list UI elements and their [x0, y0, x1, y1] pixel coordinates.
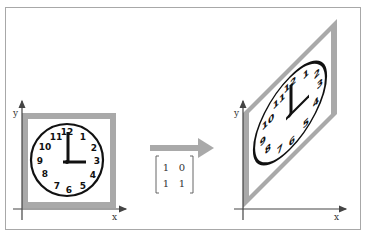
clock-icon: 12 1 2 3 4 5 6 7 8 9 10 11	[31, 124, 103, 196]
sheared-y-axis-label: y	[233, 108, 240, 118]
clock-num-9: 9	[37, 156, 43, 166]
y-axis-label: y	[12, 108, 19, 118]
clock-num-5: 5	[80, 181, 86, 191]
original-clock-panel: 12 1 2 3 4 5 6 7 8 9 10 11 y x	[12, 101, 126, 222]
clock-num-4: 4	[90, 170, 96, 180]
clock-num-7: 7	[54, 181, 60, 191]
clock-num-11: 11	[50, 132, 63, 142]
clock-num-1: 1	[80, 132, 86, 142]
matrix-r2c1: 1	[163, 178, 169, 189]
matrix-r1c2: 0	[179, 162, 185, 173]
matrix-r2c2: 1	[179, 178, 185, 189]
clock-num-6: 6	[66, 185, 72, 195]
sheared-x-axis-label: x	[334, 212, 339, 222]
clock-num-8: 8	[42, 169, 48, 179]
arrow-shaft	[150, 145, 200, 151]
clock-num-3: 3	[94, 156, 100, 166]
clock-num-2: 2	[91, 143, 97, 153]
matrix-r1c1: 1	[163, 162, 169, 173]
clock-num-10: 10	[39, 142, 52, 152]
shear-diagram: 12 1 2 3 4 5 6 7 8 9 10 11 y x 1 0	[0, 0, 369, 237]
x-axis-label: x	[112, 212, 117, 222]
